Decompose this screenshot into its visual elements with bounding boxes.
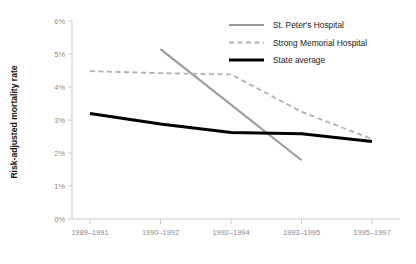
x-axis-tick-label: 1993–1995 — [283, 228, 320, 237]
x-axis-tick-label: 1995–1997 — [354, 228, 391, 237]
series-line — [161, 49, 302, 160]
chart-legend: St. Peter's HospitalStrong Memorial Hosp… — [229, 20, 367, 65]
series-line — [90, 113, 372, 141]
x-axis: 1989–19911990–19921992–19941993–19951995… — [72, 219, 401, 237]
x-axis-tick-label: 1992–1994 — [213, 228, 250, 237]
y-axis-tick-label: 4% — [54, 83, 65, 92]
y-axis-tick-label: 3% — [54, 116, 65, 125]
legend-item-label: Strong Memorial Hospital — [273, 38, 367, 48]
y-axis-title: Risk-adjusted mortality rate — [9, 65, 19, 178]
legend-item-label: State average — [273, 55, 325, 65]
y-axis-title-label: Risk-adjusted mortality rate — [9, 65, 19, 178]
y-axis: 0%1%2%3%4%5%6% — [54, 17, 72, 224]
x-axis-tick-label: 1990–1992 — [142, 228, 179, 237]
y-axis-tick-label: 1% — [54, 182, 65, 191]
line-chart: 0%1%2%3%4%5%6% 1989–19911990–19921992–19… — [0, 0, 416, 264]
y-axis-tick-label: 6% — [54, 17, 65, 26]
x-axis-tick-label: 1989–1991 — [72, 228, 109, 237]
y-axis-tick-label: 2% — [54, 149, 65, 158]
legend-item-label: St. Peter's Hospital — [273, 20, 344, 30]
y-axis-tick-label: 0% — [54, 215, 65, 224]
data-series-group — [90, 49, 372, 160]
chart-canvas: 0%1%2%3%4%5%6% 1989–19911990–19921992–19… — [0, 0, 416, 264]
y-axis-tick-label: 5% — [54, 50, 65, 59]
